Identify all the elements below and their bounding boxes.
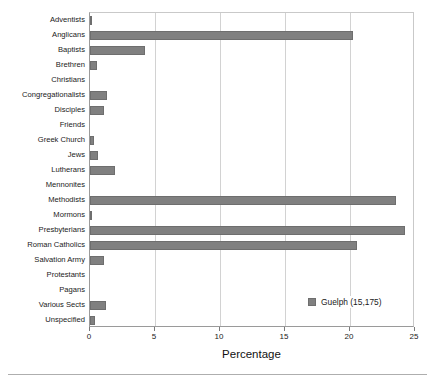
bar-disciples — [90, 106, 104, 115]
bar-congregationalists — [90, 91, 107, 100]
bar-presbyterians — [90, 226, 405, 235]
bar-row — [90, 103, 413, 118]
x-tick-label: 20 — [345, 332, 354, 341]
x-tick-label: 15 — [280, 332, 289, 341]
bar-mormons — [90, 211, 92, 220]
chart-figure: AdventistsAnglicansBaptistsBrethrenChris… — [0, 0, 435, 382]
y-axis-label: Roman Catholics — [0, 240, 85, 249]
x-axis-ticks: 0510152025 — [89, 327, 414, 347]
bar-row — [90, 28, 413, 43]
bar-row — [90, 118, 413, 133]
y-axis-label: Salvation Army — [0, 255, 85, 264]
bar-greek-church — [90, 136, 94, 145]
legend-swatch-guelph — [308, 298, 316, 306]
legend-label-guelph: Guelph (15,175) — [321, 297, 382, 307]
y-axis-label: Presbyterians — [0, 225, 85, 234]
bar-salvation-army — [90, 256, 104, 265]
y-axis-label: Jews — [0, 150, 85, 159]
bar-row — [90, 163, 413, 178]
x-tick-mark-20 — [349, 327, 350, 331]
bar-row — [90, 148, 413, 163]
y-axis-label: Brethren — [0, 60, 85, 69]
y-axis-label: Various Sects — [0, 300, 85, 309]
bar-lutherans — [90, 166, 115, 175]
bar-row — [90, 88, 413, 103]
x-axis-title: Percentage — [89, 348, 414, 360]
y-axis-label: Friends — [0, 120, 85, 129]
footer-divider — [8, 374, 427, 375]
x-tick-mark-15 — [284, 327, 285, 331]
y-axis-label: Congregationalists — [0, 90, 85, 99]
y-axis-label: Pagans — [0, 285, 85, 294]
bar-methodists — [90, 196, 396, 205]
bar-row — [90, 13, 413, 28]
bar-row — [90, 223, 413, 238]
bar-row — [90, 178, 413, 193]
bar-unspecified — [90, 316, 95, 325]
bar-baptists — [90, 46, 145, 55]
bar-roman-catholics — [90, 241, 357, 250]
x-tick-label: 10 — [215, 332, 224, 341]
y-axis-label: Anglicans — [0, 30, 85, 39]
bar-row — [90, 313, 413, 328]
bar-various-sects — [90, 301, 106, 310]
plot-area — [89, 12, 414, 327]
y-axis-label: Christians — [0, 75, 85, 84]
x-tick-mark-25 — [414, 327, 415, 331]
bar-row — [90, 268, 413, 283]
x-tick-mark-10 — [219, 327, 220, 331]
y-axis-label: Lutherans — [0, 165, 85, 174]
bar-row — [90, 133, 413, 148]
bar-row — [90, 253, 413, 268]
bar-adventists — [90, 16, 92, 25]
y-axis-category-labels: AdventistsAnglicansBaptistsBrethrenChris… — [0, 12, 85, 327]
y-axis-label: Mennonites — [0, 180, 85, 189]
bar-row — [90, 208, 413, 223]
bar-row — [90, 43, 413, 58]
bar-jews — [90, 151, 98, 160]
y-axis-label: Baptists — [0, 45, 85, 54]
legend: Guelph (15,175) — [306, 296, 384, 308]
bar-row — [90, 193, 413, 208]
bar-series-guelph — [90, 13, 413, 326]
y-axis-label: Adventists — [0, 15, 85, 24]
y-axis-label: Greek Church — [0, 135, 85, 144]
x-tick-label: 0 — [87, 332, 91, 341]
x-tick-mark-0 — [89, 327, 90, 331]
y-axis-label: Methodists — [0, 195, 85, 204]
y-axis-label: Disciples — [0, 105, 85, 114]
bar-row — [90, 238, 413, 253]
bar-row — [90, 58, 413, 73]
x-tick-label: 25 — [410, 332, 419, 341]
bar-brethren — [90, 61, 97, 70]
y-axis-label: Mormons — [0, 210, 85, 219]
x-tick-mark-5 — [154, 327, 155, 331]
bar-anglicans — [90, 31, 353, 40]
y-axis-label: Protestants — [0, 270, 85, 279]
bar-row — [90, 73, 413, 88]
x-tick-label: 5 — [152, 332, 156, 341]
y-axis-label: Unspecified — [0, 315, 85, 324]
